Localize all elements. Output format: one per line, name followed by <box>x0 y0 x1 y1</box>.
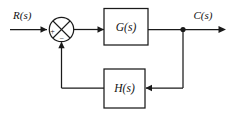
input-signal-label: R(s) <box>12 9 32 22</box>
summing-junction-minus-sign: − <box>60 34 65 43</box>
summing-junction[interactable]: + − <box>49 17 73 43</box>
forward-block-g[interactable]: G(s) <box>104 9 148 46</box>
wire-takeoff-to-feedback-block <box>146 30 184 92</box>
wire-feedback-block-to-sum <box>58 42 104 88</box>
feedback-block-label: H(s) <box>113 82 135 95</box>
arrowhead-into-feedback-block <box>146 85 153 91</box>
control-system-block-diagram: + − G(s) <box>0 0 232 114</box>
summing-junction-plus-sign: + <box>50 27 55 36</box>
output-signal-label: C(s) <box>194 9 213 22</box>
feedback-block-h[interactable]: H(s) <box>104 69 145 108</box>
block-diagram-canvas: + − G(s) <box>0 0 232 114</box>
forward-block-label: G(s) <box>116 21 137 34</box>
arrowhead-into-forward-block <box>98 26 105 32</box>
wire-sum-to-forward-block <box>74 26 104 32</box>
arrowhead-output <box>219 26 227 33</box>
wire-input-to-sum <box>10 26 47 32</box>
arrowhead-into-sum <box>41 26 48 32</box>
wire-takeoff-to-output <box>183 26 226 33</box>
